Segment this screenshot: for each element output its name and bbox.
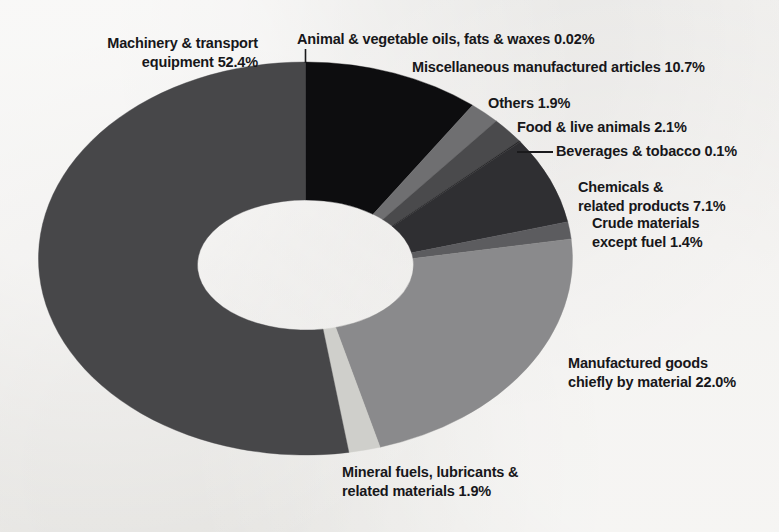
slice-label-line-2: related materials 1.9% (342, 483, 491, 499)
slice-label-animal-vegetable-oils: Animal & vegetable oils, fats & waxes 0.… (297, 30, 627, 49)
slice-label-chemicals-related-products: Chemicals & related products 7.1% (578, 178, 776, 215)
slice-label-line-1: Chemicals & (578, 179, 663, 195)
pie-slice-manufactured-goods (336, 239, 573, 447)
slice-label-manufactured-goods: Manufactured goods chiefly by material 2… (568, 354, 778, 391)
slice-label-line-2: related products 7.1% (578, 198, 726, 214)
donut-chart (0, 0, 779, 532)
pie-slices (38, 62, 572, 455)
slice-label-line-1: Crude materials (592, 215, 699, 231)
slice-label-mineral-fuels: Mineral fuels, lubricants & related mate… (342, 463, 592, 500)
slice-label-line-2: chiefly by material 22.0% (568, 374, 736, 390)
slice-label-line-1: Manufactured goods (568, 355, 708, 371)
slice-label-beverages-tobacco: Beverages & tobacco 0.1% (556, 142, 776, 161)
slice-label-line-1: Machinery & transport (107, 35, 258, 51)
slice-label-miscellaneous-manufactured: Miscellaneous manufactured articles 10.7… (412, 58, 772, 77)
slice-label-line-1: Mineral fuels, lubricants & (342, 464, 518, 480)
slice-label-machinery-transport: Machinery & transport equipment 52.4% (18, 34, 258, 71)
slice-label-line-2: except fuel 1.4% (592, 234, 702, 250)
slice-label-others: Others 1.9% (488, 94, 768, 113)
slice-label-food-live-animals: Food & live animals 2.1% (517, 118, 769, 137)
slice-label-line-2: equipment 52.4% (142, 54, 258, 70)
pie-slice-machinery-transport (38, 62, 348, 455)
slice-label-crude-materials: Crude materials except fuel 1.4% (592, 214, 776, 251)
